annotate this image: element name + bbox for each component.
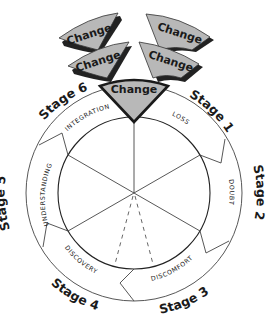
spokes xyxy=(68,117,200,231)
phase-label-loss: LOSS xyxy=(171,110,191,126)
phase-label-integration: INTEGRATION xyxy=(63,102,110,132)
svg-text:Change: Change xyxy=(111,83,158,96)
stage-label-2: Stage 2 xyxy=(250,163,266,221)
phase-label-understanding: UNDERSTANDING xyxy=(39,162,53,228)
stage-label-5: Stage 5 xyxy=(0,175,13,233)
stage-label-1: Stage 1 xyxy=(187,86,237,135)
phase-label-doubt: DOUBT xyxy=(228,179,236,206)
phase-label-discomfort: DISCOMFORT xyxy=(150,254,194,282)
change-tab-center: Change xyxy=(100,80,168,122)
stage-label-4: Stage 4 xyxy=(49,275,102,314)
dashed-spokes xyxy=(115,196,153,264)
change-cycle-diagram: LOSS DOUBT DISCOMFORT DISCOVERY UNDERSTA… xyxy=(0,0,266,325)
